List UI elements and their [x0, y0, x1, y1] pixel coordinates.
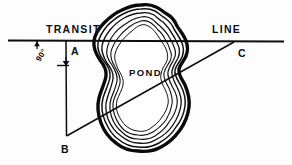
pond-label: POND [129, 67, 162, 78]
angle-tick-upper-arrowhead [34, 41, 40, 46]
survey-diagram: TRANSIT LINE POND A B C 90° [0, 0, 292, 165]
transit-label: TRANSIT [46, 23, 101, 35]
transit-line [8, 41, 284, 42]
point-c-label: C [238, 47, 246, 59]
offset-line-ab [66, 40, 67, 136]
angle-label: 90° [34, 47, 49, 63]
survey-diagram-canvas: TRANSIT LINE POND A B C 90° [0, 0, 292, 165]
point-a-label: A [71, 45, 79, 57]
line-label: LINE [212, 23, 241, 35]
point-b-label: B [61, 143, 69, 155]
